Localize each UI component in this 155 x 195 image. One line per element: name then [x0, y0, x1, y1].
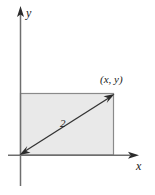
geometry-figure: y x (x, y) 2 — [0, 0, 155, 195]
diagram-canvas — [0, 0, 155, 195]
diagonal-length-label: 2 — [60, 118, 66, 129]
x-axis-label: x — [136, 160, 141, 172]
point-coordinate-label: (x, y) — [100, 74, 123, 85]
y-axis-label: y — [26, 7, 31, 19]
